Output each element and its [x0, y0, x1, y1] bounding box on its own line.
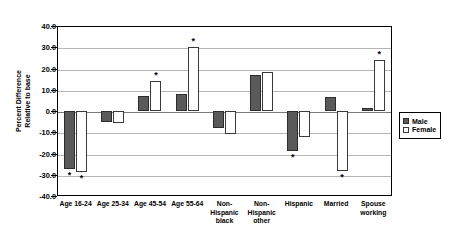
- y-axis-tick-mark: [51, 69, 57, 70]
- bar-group: *: [280, 26, 317, 196]
- legend-item-female: Female: [403, 126, 436, 133]
- x-axis-label: Married: [318, 200, 355, 226]
- y-axis-tick-mark: [51, 132, 57, 133]
- bar-female: [262, 72, 273, 111]
- bar-group: [206, 26, 243, 196]
- x-axis-label-line: Non-: [206, 200, 243, 209]
- bar-male: [176, 94, 187, 111]
- bar-female: [337, 111, 348, 171]
- x-axis-label: Non-Hispanicblack: [206, 200, 243, 226]
- x-axis-label-line: Married: [318, 200, 355, 209]
- x-axis-label-line: Age 45-54: [131, 200, 168, 209]
- bar-female: [374, 60, 385, 111]
- legend-label-female: Female: [412, 126, 436, 133]
- x-axis-label-line: working: [355, 209, 392, 218]
- chart-container: Percent Difference Relative to base ****…: [0, 0, 455, 250]
- y-axis-tick-label: 10.0: [12, 85, 56, 94]
- bar-male: [325, 97, 336, 111]
- bar-female: [188, 47, 199, 111]
- significance-marker: *: [337, 175, 348, 179]
- legend-label-male: Male: [412, 118, 428, 125]
- bar-male: [64, 111, 75, 169]
- bar-female: [113, 111, 124, 123]
- bar-male: [362, 108, 373, 111]
- x-axis-label: Age 16-24: [57, 200, 94, 226]
- y-axis-tick-label: -10.0: [12, 128, 56, 137]
- x-axis-label: Spouseworking: [355, 200, 392, 226]
- y-axis-tick-label: 20.0: [12, 64, 56, 73]
- x-axis-labels: Age 16-24Age 25-34Age 45-54Age 55-64Non-…: [57, 200, 392, 226]
- y-axis-tick-mark: [51, 90, 57, 91]
- bar-male: [138, 96, 149, 111]
- bar-group: [243, 26, 280, 196]
- x-axis-label-line: Spouse: [355, 200, 392, 209]
- y-axis-tick-mark: [51, 196, 57, 197]
- legend-swatch-male: [403, 118, 409, 124]
- x-axis-label-line: other: [243, 217, 280, 226]
- significance-marker: *: [150, 73, 161, 77]
- y-axis-tick-mark: [51, 175, 57, 176]
- significance-marker: *: [374, 52, 385, 56]
- x-axis-label-line: Age 25-34: [94, 200, 131, 209]
- x-axis-label-line: Non-: [243, 200, 280, 209]
- significance-marker: *: [188, 39, 199, 43]
- bar-female: [225, 111, 236, 134]
- y-axis-tick-mark: [51, 111, 57, 112]
- x-axis-label-line: Hispanic: [206, 209, 243, 218]
- y-axis-tick-label: -20.0: [12, 149, 56, 158]
- bar-group: *: [355, 26, 392, 196]
- significance-marker: *: [76, 176, 87, 180]
- x-axis-label: Hispanic: [280, 200, 317, 226]
- y-axis-tick-label: 30.0: [12, 43, 56, 52]
- bar-male: [287, 111, 298, 151]
- y-axis-tick-label: -40.0: [12, 192, 56, 201]
- x-axis-label: Non-Hispanicother: [243, 200, 280, 226]
- x-axis-label-line: Hispanic: [280, 200, 317, 209]
- y-axis-tick-mark: [51, 154, 57, 155]
- significance-marker: *: [287, 155, 298, 159]
- bar-group: *: [169, 26, 206, 196]
- significance-marker: *: [64, 173, 75, 177]
- bar-groups: *******: [57, 26, 392, 196]
- x-axis-label: Age 45-54: [131, 200, 168, 226]
- y-axis-tick-label: 0.0: [12, 107, 56, 116]
- legend-swatch-female: [403, 127, 409, 133]
- x-axis-label-line: Hispanic: [243, 209, 280, 218]
- bar-female: [299, 111, 310, 137]
- x-axis-label: Age 55-64: [169, 200, 206, 226]
- bar-female: [150, 81, 161, 111]
- bar-group: *: [131, 26, 168, 196]
- bar-male: [250, 75, 261, 111]
- bar-male: [213, 111, 224, 128]
- x-axis-label-line: Age 55-64: [169, 200, 206, 209]
- x-axis-label: Age 25-34: [94, 200, 131, 226]
- x-axis-label-line: black: [206, 217, 243, 226]
- legend-item-male: Male: [403, 118, 436, 125]
- bar-male: [101, 111, 112, 122]
- bar-female: [76, 111, 87, 172]
- y-axis-tick-mark: [51, 26, 57, 27]
- bar-group: [94, 26, 131, 196]
- legend: Male Female: [399, 112, 441, 139]
- bar-group: *: [318, 26, 355, 196]
- y-axis-tick-label: 40.0: [12, 22, 56, 31]
- y-axis-tick-mark: [51, 47, 57, 48]
- x-axis-label-line: Age 16-24: [57, 200, 94, 209]
- y-axis-tick-label: -30.0: [12, 170, 56, 179]
- bar-group: **: [57, 26, 94, 196]
